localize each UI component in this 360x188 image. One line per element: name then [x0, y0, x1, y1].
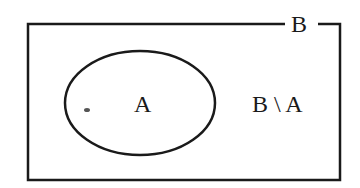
set-b-label: B — [291, 11, 307, 37]
set-a-label: A — [134, 91, 152, 117]
venn-diagram: B A B \ A — [0, 0, 360, 188]
difference-region-label: B \ A — [252, 91, 303, 117]
dot-mark — [84, 108, 90, 112]
